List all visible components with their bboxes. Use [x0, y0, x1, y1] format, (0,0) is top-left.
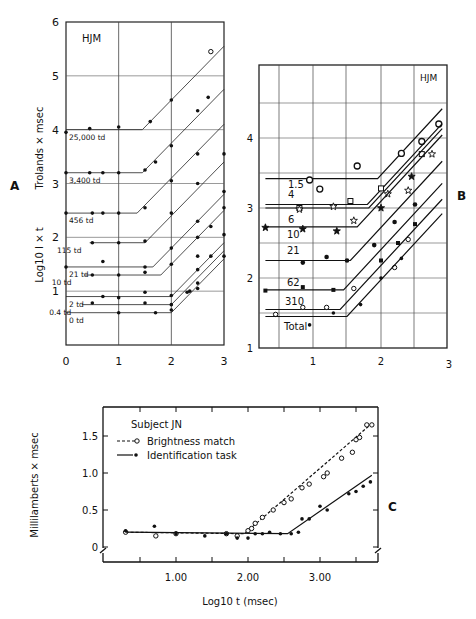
panel-label: A: [10, 179, 20, 193]
data-point: [396, 241, 400, 245]
data-point: [174, 532, 178, 536]
data-point: [101, 171, 105, 175]
data-point: [261, 532, 265, 536]
data-point: [369, 480, 373, 484]
data-point: [318, 505, 322, 509]
data-point: [209, 254, 213, 258]
data-point: [170, 294, 174, 298]
data-point: [352, 286, 356, 290]
data-point: [405, 187, 412, 194]
data-point: [64, 131, 68, 135]
data-point: [88, 171, 92, 175]
x-axis-label: Log10 t (msec): [202, 596, 277, 607]
data-point: [170, 303, 174, 307]
data-point: [170, 308, 174, 312]
y-tick-label: 0.5: [82, 505, 98, 516]
axis-break: [100, 548, 106, 553]
series: 1.5: [265, 109, 442, 192]
series-label: 0 td: [69, 316, 84, 325]
data-point: [379, 276, 383, 280]
data-point: [289, 532, 293, 536]
data-point: [117, 171, 121, 175]
data-point: [143, 290, 147, 294]
data-point: [154, 160, 158, 164]
chart-panel-c: 1.002.003.0000.51.01.5Log10 t (msec)Mill…: [29, 407, 397, 607]
y-tick-label: 1: [52, 285, 59, 298]
data-point: [91, 241, 95, 245]
data-point: [64, 211, 68, 215]
y-axis-label: Log10 I × t: [34, 227, 45, 282]
data-point: [209, 49, 213, 53]
data-point: [354, 490, 358, 494]
data-point: [154, 311, 158, 315]
legend-title: Subject JN: [131, 419, 182, 430]
series-label: 10 td: [52, 278, 72, 287]
data-point: [143, 271, 147, 275]
x-tick-label: 2.00: [237, 572, 259, 583]
data-point: [170, 262, 174, 266]
y-tick-label: 4: [52, 124, 59, 137]
data-point: [299, 225, 306, 232]
series: 25,000 td: [64, 46, 224, 141]
data-point: [91, 273, 95, 277]
data-point: [143, 265, 147, 269]
series-label: 456 td: [69, 216, 94, 225]
data-point: [324, 305, 328, 309]
data-point: [170, 246, 174, 250]
chart-panel-b: 1231234HJMB1.546102162310Total: [247, 65, 467, 370]
data-point: [117, 296, 121, 300]
y-tick-label: 1: [247, 343, 253, 354]
data-point: [307, 517, 311, 521]
chart-panel-a: 0123123456HJMTrolands × msecLog10 I × tA…: [10, 16, 228, 368]
data-point: [348, 199, 353, 204]
y-tick-label: 6: [52, 16, 59, 29]
data-point: [170, 179, 174, 183]
data-point: [148, 120, 152, 124]
chart-title: HJM: [82, 33, 101, 44]
data-point: [347, 492, 351, 496]
data-point: [196, 254, 200, 258]
data-point: [117, 273, 121, 277]
x-tick-label: 3.00: [309, 572, 331, 583]
data-point: [282, 500, 286, 504]
data-point: [170, 98, 174, 102]
data-point: [308, 323, 312, 327]
fit-line: [66, 243, 224, 297]
series: 2 td: [66, 243, 226, 309]
data-point: [301, 305, 305, 309]
data-point: [64, 265, 68, 269]
data-point: [428, 150, 435, 157]
y-tick-label: 1.0: [82, 468, 98, 479]
data-point: [370, 423, 374, 427]
data-point: [297, 530, 301, 534]
x-tick-label: 3: [446, 359, 452, 370]
series-label: 3,400 td: [69, 176, 101, 185]
panel-label: B: [457, 189, 466, 203]
data-point: [246, 536, 250, 540]
data-point: [333, 227, 340, 234]
legend-entry: Identification task: [147, 450, 237, 461]
y-tick-label: 2: [52, 231, 59, 244]
data-point: [307, 482, 311, 486]
series-label: 2 td: [69, 300, 84, 309]
data-point: [196, 268, 200, 272]
data-point: [325, 508, 329, 512]
series-label: 25,000 td: [69, 133, 106, 142]
data-point: [289, 497, 293, 501]
y-tick-label: 2: [247, 273, 253, 284]
axis-break: [375, 548, 381, 553]
fit-line: [126, 475, 372, 533]
data-point: [253, 521, 257, 525]
data-point: [331, 288, 335, 292]
x-tick-label: 2: [378, 356, 384, 367]
y-axis-label: Millilamberts × msec: [29, 432, 40, 537]
data-point: [222, 152, 226, 156]
data-point: [124, 529, 128, 533]
legend: Subject JNBrightness matchIdentification…: [117, 419, 237, 461]
x-tick-label: 3: [221, 355, 228, 368]
data-point: [222, 254, 226, 258]
x-tick-label: 1.00: [165, 572, 187, 583]
data-point: [196, 287, 200, 291]
y-axis-label-top: Trolands × msec: [34, 107, 45, 191]
data-point: [400, 257, 404, 261]
